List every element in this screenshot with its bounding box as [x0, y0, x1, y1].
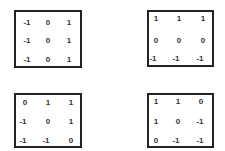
cell: 1	[41, 98, 55, 107]
kernel-top-right: 1 1 1 0 0 0 -1 -1 -1	[147, 10, 214, 67]
cell: -1	[20, 36, 34, 45]
cell: 1	[149, 14, 163, 23]
cell: -1	[193, 136, 207, 145]
cell: 0	[18, 98, 32, 107]
kernel-top-left: -1 0 1 -1 0 1 -1 0 1	[14, 10, 82, 68]
cell: 0	[172, 36, 186, 45]
cell: -1	[193, 54, 207, 63]
cell: 1	[62, 18, 76, 27]
cell: 1	[172, 14, 186, 23]
cell: 1	[149, 97, 163, 106]
cell: 1	[64, 117, 78, 126]
cell: -1	[169, 54, 183, 63]
cell: 0	[41, 55, 55, 64]
cell: 1	[62, 36, 76, 45]
cell: -1	[39, 136, 53, 145]
cell: 0	[149, 36, 163, 45]
cell: -1	[146, 54, 160, 63]
cell: 0	[41, 117, 55, 126]
cell: 1	[64, 98, 78, 107]
cell: 1	[149, 117, 163, 126]
cell: 1	[196, 14, 210, 23]
cell: 0	[171, 117, 185, 126]
cell: 0	[149, 136, 163, 145]
kernel-bottom-left: 0 1 1 -1 0 1 -1 -1 0	[14, 93, 82, 148]
cell: -1	[20, 18, 34, 27]
cell: -1	[20, 55, 34, 64]
cell: 0	[196, 36, 210, 45]
kernel-bottom-right: 1 1 0 1 0 -1 0 -1 -1	[147, 93, 214, 148]
cell: 0	[194, 97, 208, 106]
cell: -1	[16, 117, 30, 126]
cell: 0	[41, 18, 55, 27]
cell: -1	[169, 136, 183, 145]
cell: 1	[171, 97, 185, 106]
cell: 1	[62, 55, 76, 64]
cell: -1	[193, 117, 207, 126]
cell: -1	[16, 136, 30, 145]
cell: 0	[64, 136, 78, 145]
cell: 0	[41, 36, 55, 45]
